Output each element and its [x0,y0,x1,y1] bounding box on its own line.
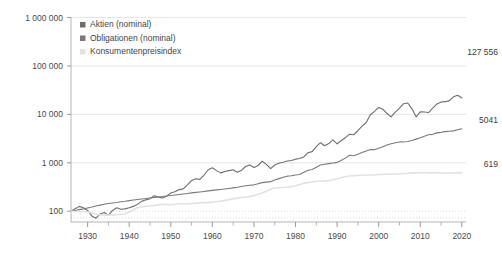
x-tick-label-1950: 1950 [161,231,180,241]
end-value-labels: 127 5565041619 [467,47,498,169]
x-tick-label-1940: 1940 [120,231,139,241]
y-tick-label-100000: 100 000 [32,61,63,71]
x-axis: 1930194019501960197019801990200020102020 [71,222,472,241]
series-line-0 [71,95,462,218]
chart-legend: Aktien (nominal)Obligationen (nominal)Ko… [80,19,182,56]
series-line-2 [71,173,462,216]
legend-swatch-1 [80,36,86,42]
y-tick-label-100: 100 [49,206,63,216]
end-label-0: 127 556 [467,47,498,57]
series-line-1 [71,129,462,211]
y-axis: 1001 00010 000100 0001 000 000 [25,13,71,223]
legend-label-2: Konsumentenpreisindex [90,46,182,56]
y-tick-label-1000000: 1 000 000 [25,13,63,23]
x-tick-label-2010: 2010 [411,231,430,241]
legend-label-0: Aktien (nominal) [90,19,152,29]
x-tick-label-1930: 1930 [78,231,97,241]
y-tick-label-1000: 1 000 [42,158,64,168]
chart-container: 1001 00010 000100 0001 000 000 193019401… [0,0,502,255]
x-tick-label-1990: 1990 [328,231,347,241]
line-chart: 1001 00010 000100 0001 000 000 193019401… [0,0,502,255]
x-tick-label-2000: 2000 [369,231,388,241]
series-lines [71,95,462,218]
legend-swatch-2 [80,49,86,55]
legend-label-1: Obligationen (nominal) [90,33,176,43]
end-label-2: 619 [484,159,498,169]
x-tick-label-2020: 2020 [452,231,471,241]
end-label-1: 5041 [479,115,498,125]
y-tick-label-10000: 10 000 [37,109,63,119]
legend-swatch-0 [80,22,86,28]
x-tick-label-1960: 1960 [203,231,222,241]
x-tick-label-1970: 1970 [244,231,263,241]
x-tick-label-1980: 1980 [286,231,305,241]
